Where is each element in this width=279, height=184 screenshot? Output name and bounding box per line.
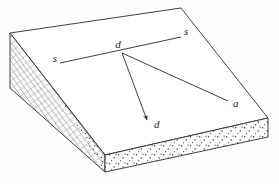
label-dip-origin: d: [115, 38, 121, 50]
label-apparent-dip: a: [233, 97, 239, 109]
label-strike-left: s: [53, 52, 57, 64]
block-diagram-figure: s s d d a: [0, 0, 279, 184]
label-dip-arrow: d: [154, 118, 160, 130]
block-diagram-svg: s s d d a: [0, 0, 279, 184]
label-strike-right: s: [184, 25, 188, 37]
